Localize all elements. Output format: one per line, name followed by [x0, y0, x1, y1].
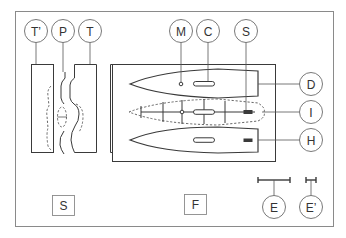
slot-c [194, 82, 215, 87]
svg-text:S: S [59, 199, 67, 213]
svg-text:T: T [86, 25, 94, 39]
callout-t: T [79, 20, 102, 43]
block-t-hidden-edge [76, 104, 83, 132]
hull-i-node [180, 110, 184, 114]
panel-label-f: F [185, 195, 207, 215]
svg-text:E: E [270, 201, 278, 215]
svg-text:S: S [242, 25, 250, 39]
svg-text:C: C [204, 25, 213, 39]
callout-c: C [197, 20, 220, 43]
hull-i-slot [194, 110, 215, 115]
svg-text:D: D [307, 78, 316, 92]
front-view-panel: M C S D I H E [113, 20, 323, 219]
hull-h-marker [244, 139, 252, 142]
callout-s: S [235, 20, 258, 43]
callout-h: H [300, 129, 323, 152]
hull-i-marker [244, 111, 252, 114]
scale-bar-e: E [258, 177, 290, 219]
callout-i: I [300, 101, 323, 124]
callout-m: M [170, 20, 193, 43]
callout-p: P [52, 20, 75, 43]
block-t-prime-hidden-edge [47, 86, 52, 150]
piece-p-upper [61, 72, 65, 104]
svg-text:T’: T’ [31, 25, 41, 39]
svg-text:H: H [307, 134, 316, 148]
hull-h-slot [194, 138, 215, 143]
svg-text:I: I [309, 106, 312, 120]
marker-m [179, 82, 183, 86]
svg-text:F: F [192, 198, 199, 212]
svg-text:P: P [59, 25, 67, 39]
callout-d: D [300, 73, 323, 96]
block-t-prime [32, 65, 54, 153]
callout-t-prime: T’ [25, 20, 48, 43]
svg-text:E’: E’ [306, 201, 317, 215]
diagram-canvas: T’ P T S [0, 0, 346, 238]
panel-label-s: S [53, 196, 75, 216]
piece-p-lower [60, 131, 64, 154]
block-t [70, 65, 97, 153]
svg-text:M: M [176, 25, 186, 39]
side-view-panel: T’ P T S [25, 20, 113, 216]
scale-bar-e-prime: E’ [300, 177, 323, 219]
block-edge [111, 65, 113, 153]
